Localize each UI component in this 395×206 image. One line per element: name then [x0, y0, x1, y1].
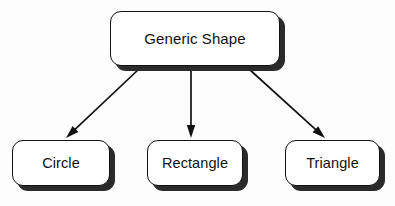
generic-shape-box[interactable]: Generic Shape — [110, 11, 280, 66]
arrow-generic-shape-to-circle — [66, 69, 139, 138]
triangle-label: Triangle — [306, 156, 359, 171]
arrow-generic-shape-to-triangle — [249, 69, 325, 138]
generic-shape-label: Generic Shape — [144, 31, 245, 46]
triangle-box[interactable]: Triangle — [285, 140, 380, 186]
diagram-canvas: Generic Shape Circle Rectangle Triangle — [0, 0, 395, 206]
arrow-generic-shape-to-rectangle — [187, 69, 195, 138]
circle-box[interactable]: Circle — [12, 140, 110, 186]
rectangle-box[interactable]: Rectangle — [147, 140, 243, 186]
circle-label: Circle — [42, 156, 80, 171]
rectangle-label: Rectangle — [162, 156, 228, 171]
